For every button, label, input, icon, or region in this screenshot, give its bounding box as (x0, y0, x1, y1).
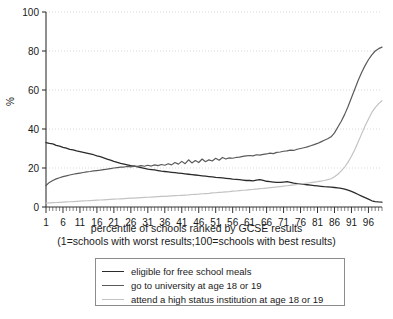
y-tick-label: 100 (22, 7, 39, 18)
legend-label: go to university at age 18 or 19 (131, 280, 261, 291)
legend-swatch-high-status (102, 299, 124, 300)
x-axis-subtitle: (1=schools with worst results;100=school… (0, 235, 393, 248)
y-tick-label: 20 (28, 163, 40, 174)
x-axis-title: percentile of schools ranked by GCSE res… (0, 222, 393, 235)
chart-container: % 02040608010016111621263136414651566166… (0, 0, 393, 319)
y-tick-label: 40 (28, 124, 40, 135)
legend-label: eligible for free school meals (131, 266, 251, 277)
legend-item: go to university at age 18 or 19 (102, 278, 338, 292)
legend-item: attend a high status institution at age … (102, 292, 338, 306)
legend-label: attend a high status institution at age … (131, 294, 323, 305)
legend-item: eligible for free school meals (102, 264, 338, 278)
series-line-1 (46, 47, 382, 185)
y-tick-label: 60 (28, 85, 40, 96)
y-tick-label: 0 (33, 202, 39, 213)
y-tick-label: 80 (28, 46, 40, 57)
legend-swatch-university (102, 285, 124, 286)
legend-swatch-fsm (102, 271, 124, 272)
chart-legend: eligible for free school meals go to uni… (95, 258, 345, 306)
